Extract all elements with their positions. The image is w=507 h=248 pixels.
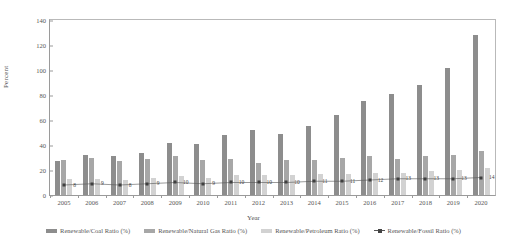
bar-petroleum-2012: [262, 175, 267, 195]
x-tick-label-2013: 2013: [280, 199, 293, 206]
bar-coal-2007: [111, 156, 116, 195]
x-tick-mark: [412, 195, 413, 198]
bar-petroleum-2011: [234, 175, 239, 195]
bar-coal-2006: [83, 155, 88, 195]
bar-group-2018: 2018: [412, 20, 440, 195]
chart-legend: Renewable/Coal Ratio (%)Renewable/Natura…: [0, 227, 507, 234]
bar-petroleum-2009: [179, 176, 184, 195]
bar-petroleum-2007: [123, 180, 128, 195]
bar-coal-2018: [417, 85, 422, 195]
legend-label: Renewable/Petroleum Ratio (%): [275, 227, 359, 234]
legend-label: Renewable/Natural Gas Ratio (%): [158, 227, 247, 234]
bar-coal-2008: [139, 153, 144, 196]
bar-gas-2009: [173, 156, 178, 195]
y-tick-60: 60: [40, 117, 51, 124]
bar-group-2015: 2015: [328, 20, 356, 195]
x-tick-mark: [78, 195, 79, 198]
x-tick-mark: [189, 195, 190, 198]
bar-petroleum-2019: [457, 170, 462, 195]
bar-group-2005: 2005: [50, 20, 78, 195]
bar-coal-2005: [55, 161, 60, 195]
x-tick-label-2015: 2015: [336, 199, 349, 206]
bar-group-2007: 2007: [106, 20, 134, 195]
x-tick-mark: [133, 195, 134, 198]
bar-petroleum-2014: [318, 174, 323, 195]
x-tick-mark: [467, 195, 468, 198]
y-tick-0: 0: [43, 192, 50, 199]
bar-group-2006: 2006: [78, 20, 106, 195]
x-tick-label-2010: 2010: [196, 199, 209, 206]
legend-label: Renewable/Coal Ratio (%): [60, 227, 130, 234]
x-tick-label-2012: 2012: [252, 199, 265, 206]
x-tick-label-2018: 2018: [419, 199, 432, 206]
bar-petroleum-2008: [151, 178, 156, 196]
y-tick-120: 120: [36, 42, 50, 49]
bar-group-2019: 2019: [439, 20, 467, 195]
x-tick-label-2014: 2014: [308, 199, 321, 206]
x-tick-mark: [217, 195, 218, 198]
x-tick-label-2019: 2019: [447, 199, 460, 206]
plot-area: 020406080100120140 200520062007200820092…: [49, 19, 496, 196]
bar-coal-2013: [278, 134, 283, 195]
x-tick-mark: [50, 195, 51, 198]
x-tick-mark: [384, 195, 385, 198]
bar-petroleum-2016: [373, 173, 378, 196]
bar-group-2012: 2012: [245, 20, 273, 195]
bar-groups: 2005200620072008200920102011201220132014…: [50, 20, 495, 195]
bar-petroleum-2013: [290, 175, 295, 195]
x-tick-mark: [439, 195, 440, 198]
y-tick-80: 80: [40, 92, 51, 99]
bar-coal-2020: [473, 35, 478, 195]
bar-coal-2012: [250, 130, 255, 195]
bar-petroleum-2018: [429, 171, 434, 195]
bar-gas-2006: [89, 158, 94, 196]
legend-swatch-line-icon: [374, 228, 385, 233]
legend-item-gas[interactable]: Renewable/Natural Gas Ratio (%): [144, 227, 247, 234]
bar-group-2008: 2008: [133, 20, 161, 195]
bar-gas-2020: [479, 151, 484, 195]
bar-group-2017: 2017: [384, 20, 412, 195]
x-tick-label-2007: 2007: [113, 199, 126, 206]
x-tick-mark: [245, 195, 246, 198]
x-tick-mark: [273, 195, 274, 198]
bar-group-2011: 2011: [217, 20, 245, 195]
legend-label: Renewable/Fossil Ratio (%): [388, 227, 461, 234]
bar-gas-2013: [284, 160, 289, 195]
x-tick-mark: [356, 195, 357, 198]
bar-gas-2015: [340, 158, 345, 196]
bar-petroleum-2017: [401, 173, 406, 196]
bar-petroleum-2006: [95, 179, 100, 195]
x-tick-label-2006: 2006: [85, 199, 98, 206]
y-tick-100: 100: [36, 67, 50, 74]
bar-gas-2012: [256, 163, 261, 196]
bar-gas-2011: [228, 159, 233, 195]
bar-coal-2015: [334, 115, 339, 195]
bar-group-2009: 2009: [161, 20, 189, 195]
y-axis-title: Percent: [2, 66, 10, 88]
x-tick-label-2016: 2016: [363, 199, 376, 206]
bar-petroleum-2015: [346, 174, 351, 195]
bar-gas-2005: [61, 160, 66, 195]
legend-item-coal[interactable]: Renewable/Coal Ratio (%): [46, 227, 130, 234]
x-tick-mark: [106, 195, 107, 198]
y-tick-40: 40: [40, 142, 51, 149]
bar-group-2014: 2014: [300, 20, 328, 195]
bar-coal-2009: [167, 143, 172, 196]
bar-group-2013: 2013: [273, 20, 301, 195]
x-tick-label-2011: 2011: [224, 199, 237, 206]
legend-item-petrol[interactable]: Renewable/Petroleum Ratio (%): [261, 227, 359, 234]
x-tick-label-2005: 2005: [57, 199, 70, 206]
x-tick-mark: [300, 195, 301, 198]
x-tick-label-2008: 2008: [141, 199, 154, 206]
x-tick-label-2017: 2017: [391, 199, 404, 206]
legend-swatch-petrol-icon: [261, 229, 272, 233]
x-axis-title: Year: [0, 214, 507, 222]
bar-gas-2017: [395, 159, 400, 195]
legend-item-line[interactable]: Renewable/Fossil Ratio (%): [374, 227, 461, 234]
x-tick-label-2009: 2009: [169, 199, 182, 206]
bar-petroleum-2005: [67, 179, 72, 195]
bar-group-2010: 2010: [189, 20, 217, 195]
bar-petroleum-2010: [206, 178, 211, 196]
bar-coal-2010: [194, 144, 199, 195]
bar-gas-2014: [312, 160, 317, 195]
